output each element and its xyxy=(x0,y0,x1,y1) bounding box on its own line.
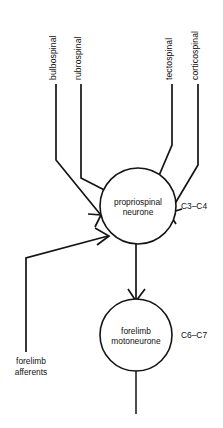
segment-label-c6-c7: C6–C7 xyxy=(181,330,207,340)
bulbospinal-axon xyxy=(56,84,100,214)
tract-label-corticospinal: corticospinal xyxy=(190,31,200,80)
tract-label-bulbospinal: bulbospinal xyxy=(48,35,58,80)
propriospinal-diagram: bulbospinal rubrospinal tectospinal cort… xyxy=(0,0,223,428)
tract-label-tectospinal: tectospinal xyxy=(164,38,174,80)
propriospinal-descending-axon xyxy=(128,244,145,301)
forelimb-afferent-fibre xyxy=(26,228,109,352)
motoneurone-label-line1: forelimb xyxy=(121,326,151,336)
tract-label-rubrospinal: rubrospinal xyxy=(73,36,83,80)
segment-label-c3-c4: C3–C4 xyxy=(181,201,207,211)
afferent-label-line1: forelimb xyxy=(16,356,46,366)
forelimb-motoneurone: forelimb motoneurone xyxy=(100,299,172,371)
bulbospinal-arrowhead xyxy=(88,214,101,227)
afferent-axon xyxy=(26,236,108,352)
propriospinal-label-line2: neurone xyxy=(123,207,154,217)
afferent-label-line2: afferents xyxy=(15,367,47,377)
propriospinal-neurone: propriospinal neurone xyxy=(100,168,176,244)
diagram-canvas: bulbospinal rubrospinal tectospinal cort… xyxy=(0,0,223,428)
propriospinal-label-line1: propriospinal xyxy=(114,197,162,207)
motoneurone-label-line2: motoneurone xyxy=(111,336,161,346)
